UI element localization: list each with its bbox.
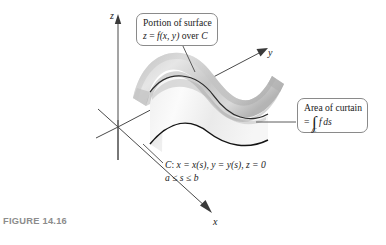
- integrand-f: f: [319, 116, 322, 129]
- axis-label-x: x: [213, 216, 217, 227]
- curve-c-line2: a ≤ s ≤ b: [165, 172, 266, 185]
- curve-c-line1: C: x = x(s), y = y(s), z = 0: [165, 159, 266, 172]
- callout-surface-line2: z = f(x, y) over C: [143, 30, 212, 43]
- axis-label-z: z: [110, 10, 114, 21]
- callout-surface-args: (x, y): [160, 30, 180, 41]
- figure-14-16: z y x Portion of surface z = f(x, y) ove…: [0, 0, 386, 245]
- axis-x-negative: [98, 109, 118, 127]
- figure-caption: FIGURE 14.16: [3, 216, 67, 226]
- curve-c-x-eq: x = x(s): [176, 159, 206, 170]
- axis-y-negative: [96, 127, 118, 138]
- callout-area-of-curtain: Area of curtain = ∫ C f ds: [297, 98, 368, 133]
- integral-subscript-c: C: [312, 127, 316, 134]
- callout-area-formula: = ∫ C f ds: [304, 116, 362, 129]
- callout-portion-of-surface: Portion of surface z = f(x, y) over C: [136, 13, 218, 46]
- integrand-ds: ds: [323, 116, 332, 129]
- callout-surface-eq: =: [147, 30, 157, 41]
- curve-c-z-eq: z = 0: [246, 159, 266, 170]
- curve-c-parametrization: C: x = x(s), y = y(s), z = 0 a ≤ s ≤ b: [165, 159, 266, 185]
- callout-surface-line1: Portion of surface: [143, 17, 212, 30]
- callout-area-equals: =: [304, 116, 309, 129]
- callout-surface-over: over: [179, 30, 201, 41]
- axis-label-y: y: [268, 47, 272, 58]
- curve-c-y-eq: y = y(s): [211, 159, 241, 170]
- integral-symbol: ∫ C: [311, 116, 318, 129]
- callout-surface-curve: C: [201, 30, 207, 41]
